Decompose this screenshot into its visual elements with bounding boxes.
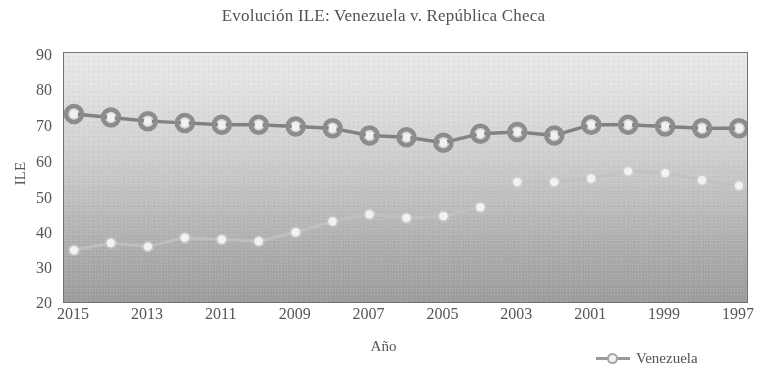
y-tick-20: 20 [36,294,52,312]
x-tick-2005: 2005 [426,305,458,323]
x-tick-1999: 1999 [648,305,680,323]
y-tick-90: 90 [36,46,52,64]
x-tick-2001: 2001 [574,305,606,323]
y-tick-40: 40 [36,224,52,242]
legend-label-venezuela: Venezuela [636,350,698,367]
legend: Venezuela [596,348,698,368]
y-axis: 90 80 70 60 50 40 30 20 [0,52,60,303]
data-series-layer [64,53,748,303]
y-axis-title: ILE [12,144,29,204]
y-tick-80: 80 [36,81,52,99]
x-tick-2011: 2011 [205,305,236,323]
y-tick-30: 30 [36,259,52,277]
y-tick-70: 70 [36,117,52,135]
chart-title: Evolución ILE: Venezuela v. República Ch… [0,6,767,26]
x-tick-2013: 2013 [131,305,163,323]
x-tick-2009: 2009 [279,305,311,323]
legend-marker-venezuela-icon [596,353,630,364]
y-tick-50: 50 [36,189,52,207]
x-tick-2003: 2003 [500,305,532,323]
x-axis: 2015 2013 2011 2009 2007 2005 2003 2001 … [63,305,748,329]
y-tick-60: 60 [36,153,52,171]
x-tick-2015: 2015 [57,305,89,323]
x-tick-2007: 2007 [353,305,385,323]
chart-root: Evolución ILE: Venezuela v. República Ch… [0,0,767,370]
x-tick-1997: 1997 [722,305,754,323]
plot-area [63,52,748,303]
